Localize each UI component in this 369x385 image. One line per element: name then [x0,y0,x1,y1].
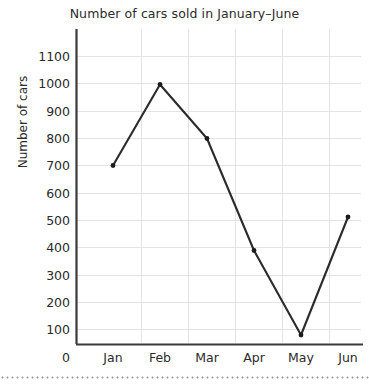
data-point-jan [111,163,116,168]
data-point-feb [158,82,163,87]
x-tick-label-jun: Jun [325,352,369,365]
x-tick-label-jan: Jan [90,352,136,365]
plot-area [0,0,369,385]
data-point-apr [252,248,257,253]
x-tick-label-mar: Mar [184,352,230,365]
data-point-jun [346,215,351,220]
vertical-gridlines [142,29,330,343]
data-point-may [299,333,304,338]
x-tick-label-apr: Apr [231,352,277,365]
x-tick-label-may: May [278,352,324,365]
horizontal-gridlines [76,57,361,330]
x-tick-label-feb: Feb [137,352,183,365]
bottom-dotted-rule [0,376,369,379]
data-point-mar [205,136,210,141]
data-line [113,85,348,336]
line-chart: Number of cars sold in January–June Numb… [0,0,369,385]
